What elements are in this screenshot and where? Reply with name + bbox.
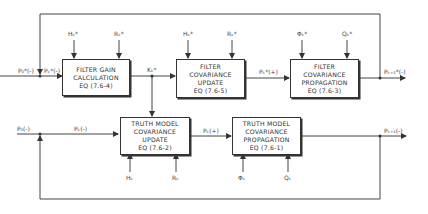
connector-lines <box>0 0 428 214</box>
block-title-2: COVARIANCE <box>189 71 231 79</box>
label-pk-star-minus: Pₖ*(-) <box>44 67 60 74</box>
block-title-2: COVARIANCE <box>303 71 345 79</box>
block-title-3: PROPAGATION <box>301 79 347 87</box>
truth-model-covariance-update-block: TRUTH MODEL COVARIANCE UPDATE EQ (7.6-2) <box>120 117 190 155</box>
label-pk-minus: Pₖ(-) <box>74 125 87 132</box>
block-equation: EQ (7.6-4) <box>79 82 113 90</box>
block-equation: EQ (7.6-2) <box>138 144 172 152</box>
block-title-2: COVARIANCE <box>245 128 287 136</box>
block-title-3: UPDATE <box>198 79 224 87</box>
block-equation: EQ (7.6-1) <box>250 144 284 152</box>
block-title-2: CALCULATION <box>73 74 119 82</box>
label-pk-plus: Pₖ(+) <box>203 127 219 134</box>
kalman-covariance-block-diagram: FILTER GAIN CALCULATION EQ (7.6-4) FILTE… <box>0 0 428 214</box>
block-title-3: UPDATE <box>142 136 168 144</box>
block-title: FILTER <box>314 63 335 71</box>
label-hk: Hₖ <box>126 174 133 181</box>
block-title: TRUTH MODEL <box>131 120 179 128</box>
truth-model-covariance-propagation-block: TRUTH MODEL COVARIANCE PROPAGATION EQ (7… <box>232 117 301 155</box>
filter-gain-calculation-block: FILTER GAIN CALCULATION EQ (7.6-4) <box>62 59 130 96</box>
label-p0-star: P₀*(-) <box>18 67 34 74</box>
label-q-star: Qₖ* <box>342 30 352 37</box>
block-equation: EQ (7.6-3) <box>308 87 342 95</box>
block-equation: EQ (7.6-5) <box>194 87 228 95</box>
label-r-star-update: Rₖ* <box>227 30 237 37</box>
label-rk: Rₖ <box>172 174 179 181</box>
label-pk1-star-minus: Pₖ₊₁*(-) <box>384 68 406 75</box>
block-title-2: COVARIANCE <box>134 128 176 136</box>
block-title: FILTER <box>200 63 221 71</box>
label-h-star-gain: Hₖ* <box>68 30 78 37</box>
block-title: FILTER GAIN <box>76 66 116 74</box>
label-h-star-update: Hₖ* <box>183 30 193 37</box>
block-title: TRUTH MODEL <box>243 120 291 128</box>
label-k-star: Kₖ* <box>147 66 157 73</box>
label-r-star-gain: Rₖ* <box>114 30 124 37</box>
block-title-3: PROPAGATION <box>243 136 289 144</box>
label-phik: Φₖ <box>238 174 245 181</box>
filter-covariance-propagation-block: FILTER COVARIANCE PROPAGATION EQ (7.6-3) <box>290 59 359 98</box>
filter-covariance-update-block: FILTER COVARIANCE UPDATE EQ (7.6-5) <box>176 59 245 98</box>
label-p0: P₀(-) <box>17 125 30 132</box>
label-pk1-minus: Pₖ₊₁(-) <box>384 127 403 134</box>
label-qk: Qₖ <box>284 174 291 181</box>
label-phi-star: Φₖ* <box>297 30 307 37</box>
label-pk-star-plus: Pₖ*(+) <box>259 68 278 75</box>
